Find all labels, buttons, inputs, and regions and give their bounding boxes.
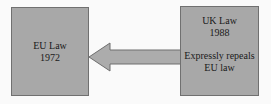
- node-eu-law-line-2: 1972: [40, 52, 60, 64]
- node-eu-law: EU Law 1972: [11, 7, 89, 96]
- node-uk-law-line-4: EU law: [204, 62, 234, 74]
- node-eu-law-line-1: EU Law: [33, 40, 67, 52]
- node-uk-law-line-2: 1988: [210, 27, 230, 39]
- node-uk-law-line-1: UK Law: [202, 15, 237, 27]
- repeals-arrow-icon: [88, 41, 182, 73]
- node-uk-law: UK Law 1988 Expressly repeals EU law: [180, 6, 259, 96]
- diagram-canvas: EU Law 1972 UK Law 1988 Expressly repeal…: [0, 0, 271, 104]
- node-uk-law-line-3: Expressly repeals: [184, 50, 254, 62]
